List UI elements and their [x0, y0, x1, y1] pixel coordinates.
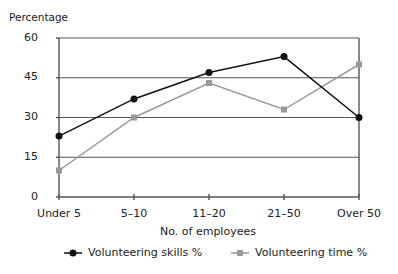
square-marker-icon: [231, 248, 249, 258]
data-series: [56, 53, 363, 173]
x-tick-5-10: 5–10: [99, 207, 169, 220]
x-tick-over-50: Over 50: [324, 207, 394, 220]
legend-item-skills: Volunteering skills %: [64, 246, 202, 259]
circle-marker-icon: [64, 248, 82, 258]
x-axis-title: No. of employees: [0, 225, 398, 238]
legend-label-skills: Volunteering skills %: [88, 246, 202, 259]
x-tick-11-20: 11–20: [174, 207, 244, 220]
legend-label-time: Volunteering time %: [255, 246, 367, 259]
x-tick-21-50: 21–50: [249, 207, 319, 220]
x-tick-under-5: Under 5: [24, 207, 94, 220]
legend-item-time: Volunteering time %: [231, 246, 367, 259]
axes: [56, 38, 359, 200]
